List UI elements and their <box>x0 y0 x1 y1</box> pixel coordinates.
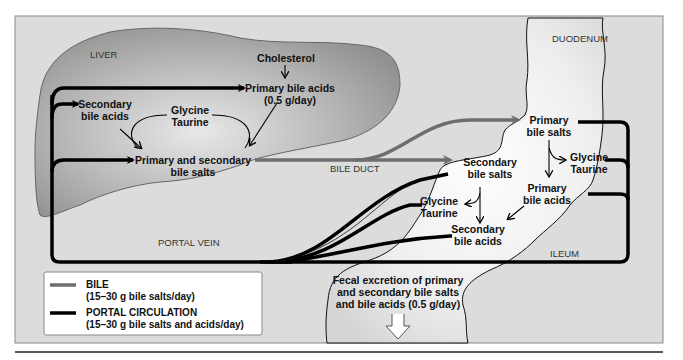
glycine-left-label: Glycine <box>420 195 458 207</box>
fecal-excretion-line3: and bile acids (0.5 g/day) <box>336 298 460 310</box>
taurine-left-label: Taurine <box>420 207 457 219</box>
bile-duct-label: BILE DUCT <box>330 163 380 174</box>
secondary-bile-acids-liver-label-2: bile acids <box>81 110 129 122</box>
legend-portal-detail: (15–30 g bile salts and acids/day) <box>86 319 244 330</box>
secondary-bile-acids-gut-label-2: bile acids <box>454 235 502 247</box>
glycine-right-label: Glycine <box>570 151 608 163</box>
primary-bile-acids-label: Primary bile acids <box>245 82 335 94</box>
legend: BILE (15–30 g bile salts/day) PORTAL CIR… <box>44 272 262 335</box>
ileum-label: ILEUM <box>550 248 579 259</box>
secondary-bile-acids-gut-label: Secondary <box>451 223 505 235</box>
bile-salts-liver-label: Primary and secondary <box>135 154 251 166</box>
primary-bile-acids-rate: (0.5 g/day) <box>264 94 316 106</box>
primary-bile-salts-label-2: bile salts <box>527 126 572 138</box>
taurine-right-label: Taurine <box>570 163 607 175</box>
fecal-excretion-line2: and secondary bile salts <box>337 286 459 298</box>
taurine-liver-label: Taurine <box>171 116 208 128</box>
portal-vein-label: PORTAL VEIN <box>158 237 220 248</box>
secondary-bile-salts-label-2: bile salts <box>468 168 513 180</box>
primary-bile-acids-gut-label: Primary <box>527 182 566 194</box>
secondary-bile-salts-label: Secondary <box>463 156 517 168</box>
cholesterol-label: Cholesterol <box>257 52 315 64</box>
bile-salts-liver-label-2: bile salts <box>171 166 216 178</box>
enterohepatic-circulation-diagram: LIVER DUODENUM ILEUM BILE DUCT PORTAL VE… <box>0 0 683 360</box>
duodenum-label: DUODENUM <box>552 33 608 44</box>
legend-bile-detail: (15–30 g bile salts/day) <box>86 291 195 302</box>
primary-bile-salts-label: Primary <box>529 114 568 126</box>
legend-bile-label: BILE <box>86 279 109 290</box>
secondary-bile-acids-liver-label: Secondary <box>78 98 132 110</box>
glycine-liver-label: Glycine <box>171 104 209 116</box>
fecal-excretion-line1: Fecal excretion of primary <box>333 274 464 286</box>
legend-portal-label: PORTAL CIRCULATION <box>86 307 197 318</box>
liver-label: LIVER <box>90 49 118 60</box>
primary-bile-acids-gut-label-2: bile acids <box>523 194 571 206</box>
